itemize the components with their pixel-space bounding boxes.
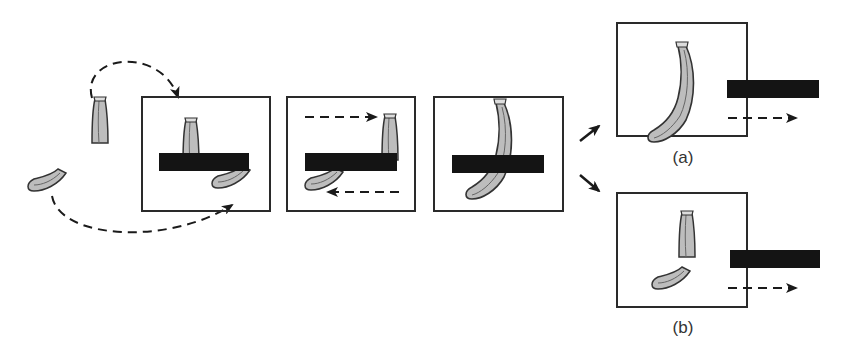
curved-arrow-top	[91, 62, 178, 98]
occluder-bar-outcome-a	[727, 80, 819, 98]
branch-arrow-down	[580, 175, 599, 191]
label-outcome-a: (a)	[673, 148, 694, 168]
diagram-canvas	[0, 0, 851, 358]
banana-top-piece-initial	[92, 97, 108, 143]
label-outcome-b: (b)	[673, 318, 694, 338]
occluder-bar-outcome-b	[730, 250, 820, 268]
occluder-bar-step-3	[452, 155, 544, 173]
branch-arrow-up	[580, 126, 599, 141]
banana-bottom-piece-initial	[28, 169, 66, 191]
occluder-bar-step-2	[305, 153, 397, 171]
occluder-bar-step-1	[159, 153, 249, 171]
